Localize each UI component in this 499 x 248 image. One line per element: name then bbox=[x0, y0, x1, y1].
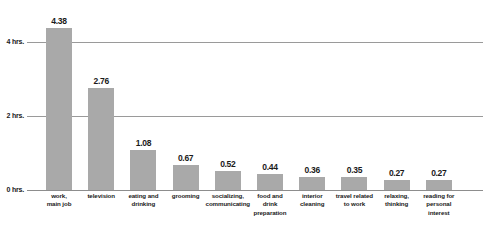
bar-group: 0.52 bbox=[207, 171, 249, 190]
bar-value-label: 0.27 bbox=[376, 168, 418, 178]
bar-value-label: 0.67 bbox=[165, 153, 207, 163]
bar[interactable] bbox=[341, 177, 367, 190]
bar[interactable] bbox=[130, 150, 156, 190]
bar-value-label: 0.36 bbox=[291, 165, 333, 175]
bar[interactable] bbox=[88, 88, 114, 190]
plot-area: 4.38work, main job2.76television1.08eati… bbox=[0, 0, 499, 248]
bar-value-label: 0.44 bbox=[249, 162, 291, 172]
bar-group: 0.27 bbox=[418, 180, 460, 190]
bar-value-label: 0.52 bbox=[207, 159, 249, 169]
bar-value-label: 1.08 bbox=[122, 138, 164, 148]
bar-group: 0.36 bbox=[291, 177, 333, 190]
bar-group: 0.27 bbox=[376, 180, 418, 190]
bar[interactable] bbox=[173, 165, 199, 190]
bar-value-label: 0.35 bbox=[333, 165, 375, 175]
x-axis-category-label: reading for personal interest bbox=[412, 192, 466, 217]
bar-group: 0.44 bbox=[249, 174, 291, 190]
bar-group: 0.35 bbox=[333, 177, 375, 190]
bar-group: 4.38 bbox=[38, 28, 80, 190]
bar[interactable] bbox=[299, 177, 325, 190]
bar-value-label: 4.38 bbox=[38, 16, 80, 26]
bar[interactable] bbox=[257, 174, 283, 190]
bar-group: 2.76 bbox=[80, 88, 122, 190]
bar-chart: 4 hrs. 2 hrs. 0 hrs. 4.38work, main job2… bbox=[0, 0, 499, 248]
bar-value-label: 0.27 bbox=[418, 168, 460, 178]
bar[interactable] bbox=[384, 180, 410, 190]
bar-value-label: 2.76 bbox=[80, 76, 122, 86]
bar[interactable] bbox=[215, 171, 241, 190]
bar[interactable] bbox=[426, 180, 452, 190]
bar[interactable] bbox=[46, 28, 72, 190]
bar-group: 1.08 bbox=[122, 150, 164, 190]
bar-group: 0.67 bbox=[165, 165, 207, 190]
